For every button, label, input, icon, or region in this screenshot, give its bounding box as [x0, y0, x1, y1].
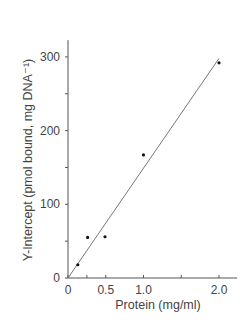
axes	[65, 40, 237, 278]
y-tick-label: 300	[40, 50, 60, 64]
regression-line	[68, 58, 219, 278]
data-point	[76, 263, 79, 266]
x-tick-label: 2.0	[211, 283, 228, 297]
data-points	[76, 61, 220, 266]
x-tick-label: 0.5	[97, 283, 114, 297]
y-tick-label: 100	[40, 197, 60, 211]
y-tick-label: 0	[53, 271, 60, 285]
fit-line	[68, 58, 219, 278]
x-tick-label: 0	[65, 283, 72, 297]
data-point	[103, 235, 106, 238]
data-point	[217, 61, 220, 64]
y-axis-title: Y-Intercept (pmol bound, mg DNA⁻¹)	[21, 59, 35, 261]
y-tick-label: 200	[40, 124, 60, 138]
x-tick-label: 1.0	[135, 283, 152, 297]
chart: 010020030000.51.02.0 Protein (mg/ml) Y-I…	[0, 0, 248, 330]
data-point	[86, 236, 89, 239]
x-axis-title: Protein (mg/ml)	[115, 298, 200, 312]
data-point	[142, 153, 145, 156]
